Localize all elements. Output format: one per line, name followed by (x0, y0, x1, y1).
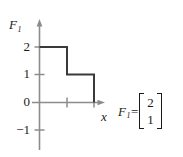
right-bracket-icon (157, 93, 162, 129)
y-axis-title: F1 (9, 18, 21, 31)
x-axis-title: x (101, 110, 107, 123)
equation-lhs-symbol: F (118, 104, 126, 119)
vector-entry-2: 1 (147, 111, 154, 128)
equation-lhs-subscript: 1 (126, 111, 130, 120)
equals-sign: = (130, 105, 139, 118)
y-tick-label-2: 2 (8, 40, 30, 53)
y-axis-title-subscript: 1 (17, 25, 21, 34)
x-axis-arrowhead (98, 100, 106, 106)
y-tick-label-0: 0 (8, 95, 30, 108)
y-tick-label-minus-1: −1 (4, 123, 30, 136)
y-axis-title-text: F (9, 17, 17, 32)
vector-entries: 2 1 (144, 93, 157, 129)
vector-entry-1: 2 (147, 94, 154, 111)
step-function-curve (40, 47, 95, 103)
y-tick-label-1: 1 (8, 67, 30, 80)
column-vector: 2 1 (139, 93, 162, 129)
force-step-figure: F1 x 2 1 0 −1 F1 = 2 1 (0, 0, 183, 157)
equation-lhs: F1 (118, 105, 130, 118)
vector-equation: F1 = 2 1 (118, 93, 162, 129)
y-axis-arrowhead (37, 19, 43, 27)
